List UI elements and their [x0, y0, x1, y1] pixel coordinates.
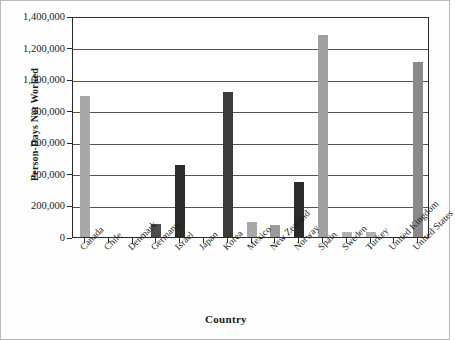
y-axis-title: Person-Days Not Worked: [29, 30, 40, 220]
y-axis-tick-label: 800,000: [1, 106, 65, 117]
bar: [318, 35, 328, 237]
y-axis-tick-label: 1,200,000: [1, 43, 65, 54]
plot-area: [72, 17, 429, 238]
y-axis-tick-label: 0: [1, 232, 65, 243]
bar: [223, 92, 233, 237]
y-axis-tick-label: 400,000: [1, 169, 65, 180]
bar: [80, 96, 90, 237]
y-axis-tick-label: 200,000: [1, 200, 65, 211]
bar-series: [73, 18, 428, 237]
y-axis-tick-label: 1,000,000: [1, 74, 65, 85]
x-axis-title: Country: [1, 313, 451, 325]
y-axis-tick-label: 1,400,000: [1, 11, 65, 22]
y-axis-tick-label: 600,000: [1, 137, 65, 148]
